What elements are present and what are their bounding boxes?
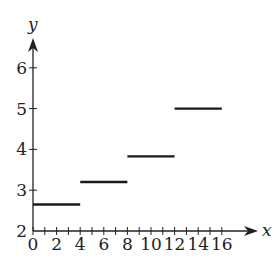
y-axis-label: y xyxy=(27,14,38,34)
x-tick-label: 6 xyxy=(98,234,109,254)
axes xyxy=(28,38,258,236)
ticks xyxy=(29,68,222,235)
x-tick-label: 10 xyxy=(140,234,162,254)
y-tick-label: 6 xyxy=(16,58,27,78)
x-tick-label: 16 xyxy=(211,234,233,254)
step-function-chart: 024681012141623456 x y xyxy=(0,0,275,269)
x-tick-label: 0 xyxy=(28,234,39,254)
y-tick-label: 4 xyxy=(16,139,27,159)
y-tick-label: 2 xyxy=(16,221,27,241)
x-tick-label: 8 xyxy=(122,234,133,254)
data-segments xyxy=(33,109,222,205)
x-tick-label: 12 xyxy=(164,234,186,254)
y-tick-label: 5 xyxy=(16,99,27,119)
x-tick-label: 14 xyxy=(187,234,209,254)
x-axis-label: x xyxy=(262,220,272,240)
tick-labels: 024681012141623456 xyxy=(16,58,232,254)
y-tick-label: 3 xyxy=(16,180,27,200)
x-tick-label: 2 xyxy=(51,234,62,254)
x-tick-label: 4 xyxy=(75,234,86,254)
